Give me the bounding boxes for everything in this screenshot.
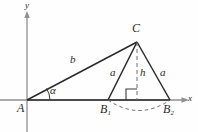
vertex-label-B2-base: B xyxy=(163,102,170,116)
height-label-h: h xyxy=(140,67,146,78)
y-axis-arrow-icon xyxy=(24,11,29,18)
vertex-label-A: A xyxy=(17,102,24,114)
x-axis-label: x xyxy=(188,94,192,103)
right-angle-marker-icon xyxy=(126,89,137,100)
segment-b-A-C xyxy=(27,42,137,100)
vertex-label-B2: B2 xyxy=(163,103,174,117)
angle-label-alpha: α xyxy=(50,85,56,96)
dashed-arc-B1-B2 xyxy=(108,100,170,111)
vertex-label-B2-subscript: 2 xyxy=(171,109,175,117)
y-axis-label: y xyxy=(25,1,29,10)
vertex-label-C: C xyxy=(132,22,140,34)
geometry-figure: y x A C B1 B2 b a a h α xyxy=(0,0,198,132)
vertex-label-B1: B1 xyxy=(100,103,111,117)
side-label-b: b xyxy=(70,54,76,65)
vertex-label-B1-subscript: 1 xyxy=(108,109,112,117)
side-label-a-left: a xyxy=(110,67,116,78)
side-label-a-right: a xyxy=(160,67,166,78)
vertex-label-B1-base: B xyxy=(100,102,107,116)
